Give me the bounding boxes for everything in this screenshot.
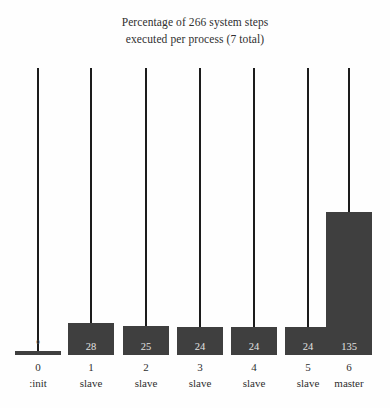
stem-line-4: [253, 68, 254, 355]
bar-value-label-1: 28: [68, 341, 114, 353]
stem-line-5: [307, 68, 308, 355]
bar-value-label-6: 135: [326, 341, 372, 353]
stem-line-3: [199, 68, 200, 355]
stem-line-0: [37, 68, 38, 355]
tick-name-6: master: [314, 375, 384, 391]
bar-value-label-5: 24: [285, 341, 331, 353]
bar-1[interactable]: 28: [68, 323, 114, 355]
bar-0[interactable]: 0: [15, 351, 61, 355]
bar-3[interactable]: 24: [177, 327, 223, 355]
bar-value-label-2: 25: [123, 341, 169, 353]
tick-index-6: 6: [314, 359, 384, 375]
stem-line-2: [145, 68, 146, 355]
bar-chart-figure: Percentage of 266 system steps executed …: [0, 0, 390, 408]
bar-5[interactable]: 24: [285, 327, 331, 355]
bar-2[interactable]: 25: [123, 326, 169, 355]
tick-label-6: 6 master: [314, 359, 384, 391]
plot-area: 0 28 25 24 24: [0, 0, 390, 408]
bar-6[interactable]: 135: [326, 212, 372, 355]
stem-line-1: [90, 68, 91, 355]
bar-value-label-4: 24: [231, 341, 277, 353]
bar-value-label-3: 24: [177, 341, 223, 353]
bar-4[interactable]: 24: [231, 327, 277, 355]
